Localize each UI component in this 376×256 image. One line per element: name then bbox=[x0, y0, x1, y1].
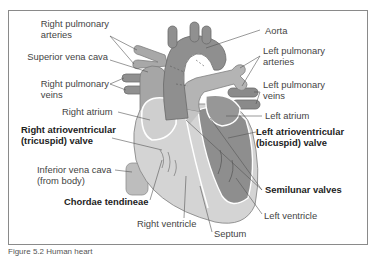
label-line: Right pulmonary bbox=[41, 78, 109, 89]
label-line: arteries bbox=[263, 56, 325, 67]
label-inferior-vena-cava: Inferior vena cava (from body) bbox=[37, 164, 112, 186]
label-left-pulmonary-veins: Left pulmonary veins bbox=[263, 79, 325, 101]
label-left-ventricle: Left ventricle bbox=[264, 210, 317, 221]
label-line: (bicuspid) valve bbox=[256, 137, 344, 148]
label-line: Left atrium bbox=[265, 110, 309, 121]
label-line: Left pulmonary bbox=[263, 45, 325, 56]
label-line: (from body) bbox=[37, 175, 112, 186]
label-semilunar-valves: Semilunar valves bbox=[265, 184, 342, 195]
label-aorta: Aorta bbox=[265, 25, 287, 36]
figure-caption: Figure 5.2 Human heart bbox=[8, 247, 93, 256]
label-left-av-valve: Left atrioventricular (bicuspid) valve bbox=[256, 126, 344, 148]
label-line: Right atrium bbox=[62, 106, 113, 117]
label-line: Right pulmonary bbox=[41, 18, 109, 29]
label-left-atrium: Left atrium bbox=[265, 110, 309, 121]
label-right-ventricle: Right ventricle bbox=[137, 218, 196, 229]
label-line: Chordae tendineae bbox=[64, 196, 148, 207]
label-line: veins bbox=[41, 89, 109, 100]
label-right-pulmonary-veins: Right pulmonary veins bbox=[41, 78, 109, 100]
label-line: Left atrioventricular bbox=[256, 126, 344, 137]
label-line: Aorta bbox=[265, 25, 287, 36]
label-right-atrium: Right atrium bbox=[62, 106, 113, 117]
label-line: Right ventricle bbox=[137, 218, 196, 229]
label-line: veins bbox=[263, 90, 325, 101]
label-line: Superior vena cava bbox=[27, 51, 108, 62]
label-line: Inferior vena cava bbox=[37, 164, 112, 175]
label-left-pulmonary-arteries: Left pulmonary arteries bbox=[263, 45, 325, 67]
label-line: Right atrioventricular bbox=[21, 124, 116, 135]
label-septum: Septum bbox=[214, 228, 246, 239]
label-line: (tricuspid) valve bbox=[21, 135, 116, 146]
label-superior-vena-cava: Superior vena cava bbox=[27, 51, 108, 62]
label-right-av-valve: Right atrioventricular (tricuspid) valve bbox=[21, 124, 116, 146]
label-line: arteries bbox=[41, 29, 109, 40]
label-right-pulmonary-arteries: Right pulmonary arteries bbox=[41, 18, 109, 40]
right-pulmonary-arteries-shape bbox=[133, 46, 168, 69]
label-chordae-tendineae: Chordae tendineae bbox=[64, 196, 148, 207]
label-line: Semilunar valves bbox=[265, 184, 342, 195]
label-line: Left pulmonary bbox=[263, 79, 325, 90]
label-line: Septum bbox=[214, 228, 246, 239]
label-line: Left ventricle bbox=[264, 210, 317, 221]
